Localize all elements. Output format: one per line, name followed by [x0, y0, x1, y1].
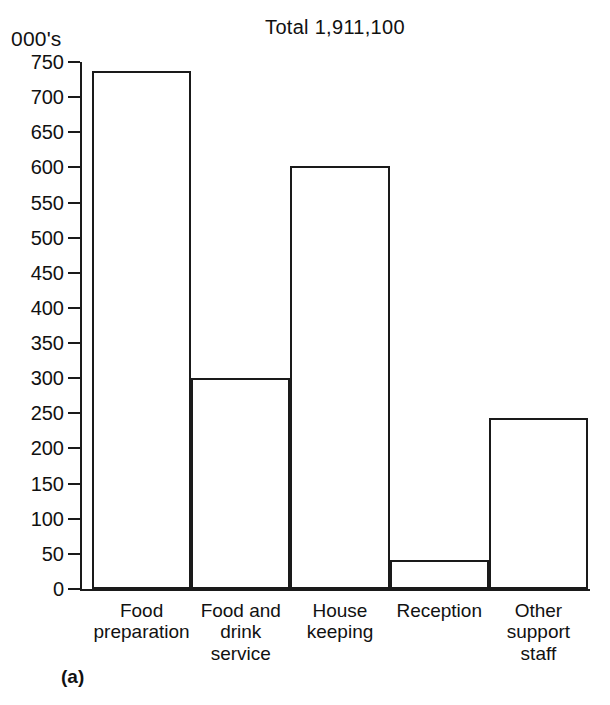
- bar: [489, 418, 588, 589]
- y-axis-tick: [68, 307, 80, 309]
- bar-chart-figure: 000's Total 1,911,100 050100150200250300…: [0, 0, 610, 705]
- y-axis-tick-label: 200: [2, 438, 64, 458]
- y-axis-tick: [68, 166, 80, 168]
- y-axis-tick-label: 300: [2, 368, 64, 388]
- y-axis-tick-label: 500: [2, 228, 64, 248]
- figure-tag: (a): [61, 666, 84, 688]
- bar: [191, 378, 290, 590]
- bar: [290, 166, 389, 589]
- y-axis-tick-label: 600: [2, 157, 64, 177]
- y-axis-tick-label: 700: [2, 87, 64, 107]
- y-axis-tick-label: 50: [2, 544, 64, 564]
- y-axis-tick: [68, 518, 80, 520]
- y-axis-tick: [68, 272, 80, 274]
- y-axis-tick: [68, 483, 80, 485]
- x-axis-category-label: Other support staff: [479, 600, 598, 664]
- y-axis-tick: [68, 588, 80, 590]
- y-axis-line: [80, 62, 82, 591]
- y-axis-tick-label: 150: [2, 474, 64, 494]
- y-axis-tick: [68, 553, 80, 555]
- y-axis-tick: [68, 377, 80, 379]
- y-axis-tick-label: 100: [2, 509, 64, 529]
- y-axis-tick-label: 250: [2, 403, 64, 423]
- y-axis-tick-label: 350: [2, 333, 64, 353]
- bar: [92, 71, 191, 589]
- y-axis-tick: [68, 61, 80, 63]
- y-axis-tick: [68, 202, 80, 204]
- y-axis-tick-label: 400: [2, 298, 64, 318]
- y-axis-tick-label: 550: [2, 193, 64, 213]
- y-axis-tick: [68, 131, 80, 133]
- bar: [390, 560, 489, 590]
- y-axis-tick-label: 750: [2, 52, 64, 72]
- y-axis-tick: [68, 237, 80, 239]
- y-axis-tick-label: 650: [2, 122, 64, 142]
- y-axis-tick-label: 450: [2, 263, 64, 283]
- y-axis-tick: [68, 412, 80, 414]
- y-axis-tick: [68, 342, 80, 344]
- x-axis-line: [80, 589, 590, 591]
- plot-area: 0501001502002503003504004505005506006507…: [0, 0, 610, 705]
- y-axis-tick-label: 0: [2, 579, 64, 599]
- y-axis-tick: [68, 447, 80, 449]
- y-axis-tick: [68, 96, 80, 98]
